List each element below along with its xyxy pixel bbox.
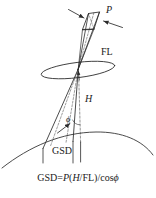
formula-h: H [72, 172, 79, 183]
formula-fl: FL [82, 172, 94, 183]
gsd-formula: GSD=P(H/FL)/cosϕ [0, 172, 156, 183]
sensor-pixel-parallelogram [83, 12, 100, 30]
focal-length-ray-cone [78, 12, 99, 69]
off-nadir-angle-arc [73, 120, 80, 125]
formula-cos: cos [100, 172, 113, 183]
earth-surface-arc [2, 132, 153, 168]
gsd-geometry-figure: P FL H ϕ GSD GSD=P(H/FL)/cosϕ [0, 0, 156, 198]
formula-lhs: GSD [37, 172, 57, 183]
altitude-dashed-line [78, 71, 80, 162]
off-nadir-angle-leader-arrow [58, 124, 71, 134]
diagram-canvas [0, 0, 156, 198]
focal-length-label: FL [101, 47, 113, 57]
ground-projection-ray-cone [43, 69, 78, 148]
gsd-label: GSD [52, 146, 72, 156]
pixel-size-label: P [106, 5, 112, 15]
formula-phi: ϕ [114, 172, 119, 183]
altitude-label: H [85, 94, 92, 104]
off-nadir-angle-label: ϕ [66, 116, 70, 124]
